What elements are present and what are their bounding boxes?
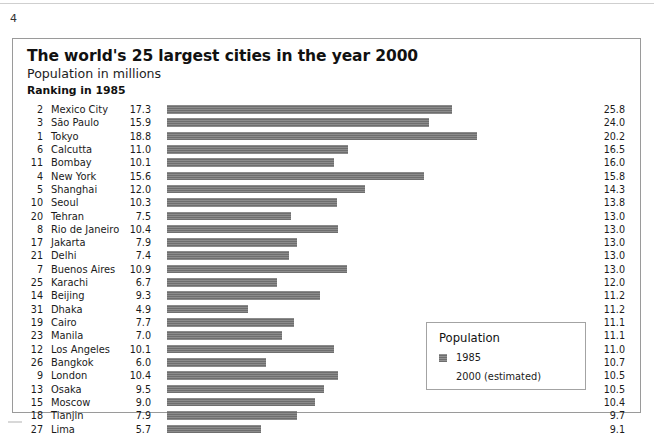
chart-subtitle: Population in millions <box>27 66 161 81</box>
row-bar-track <box>167 265 587 274</box>
row-population-2000: 10.5 <box>591 370 625 381</box>
row-city-name: Bombay <box>51 157 92 168</box>
row-city-name: Dhaka <box>51 304 83 315</box>
table-row: 27Lima5.79.1 <box>13 423 642 436</box>
row-population-2000: 11.2 <box>591 304 625 315</box>
row-population-2000: 11.1 <box>591 330 625 341</box>
legend-swatch-1985-icon <box>439 354 447 362</box>
row-rank-1985: 27 <box>23 424 43 435</box>
row-bar-1985 <box>167 118 429 127</box>
row-population-1985: 4.9 <box>125 304 151 315</box>
row-population-2000: 9.7 <box>591 410 625 421</box>
table-row: 10Seoul10.313.8 <box>13 196 642 209</box>
row-population-2000: 16.0 <box>591 157 625 168</box>
row-city-name: Mexico City <box>51 104 108 115</box>
row-rank-1985: 12 <box>23 344 43 355</box>
row-bar-1985 <box>167 305 248 314</box>
row-rank-1985: 6 <box>23 144 43 155</box>
row-population-1985: 10.3 <box>125 197 151 208</box>
row-population-2000: 11.0 <box>591 344 625 355</box>
row-bar-1985 <box>167 198 337 207</box>
row-city-name: Rio de Janeiro <box>51 224 119 235</box>
row-rank-1985: 5 <box>23 184 43 195</box>
row-bar-track <box>167 411 587 420</box>
row-population-1985: 5.7 <box>125 424 151 435</box>
row-rank-1985: 7 <box>23 264 43 275</box>
row-bar-1985 <box>167 331 282 340</box>
row-population-1985: 6.0 <box>125 357 151 368</box>
row-population-1985: 15.6 <box>125 171 151 182</box>
table-row: 7Buenos Aires10.913.0 <box>13 263 642 276</box>
scan-artifact-top-line <box>0 3 654 4</box>
row-population-2000: 10.5 <box>591 384 625 395</box>
row-population-1985: 10.4 <box>125 370 151 381</box>
row-rank-1985: 15 <box>23 397 43 408</box>
row-population-2000: 24.0 <box>591 117 625 128</box>
row-city-name: Delhi <box>51 250 76 261</box>
row-rank-1985: 20 <box>23 211 43 222</box>
row-city-name: Calcutta <box>51 144 92 155</box>
row-city-name: Lima <box>51 424 75 435</box>
ranking-column-header: Ranking in 1985 <box>27 84 126 97</box>
row-bar-track <box>167 105 587 114</box>
row-population-2000: 16.5 <box>591 144 625 155</box>
table-row: 6Calcutta11.016.5 <box>13 143 642 156</box>
row-population-1985: 15.9 <box>125 117 151 128</box>
figure-frame: The world's 25 largest cities in the yea… <box>12 38 641 413</box>
row-rank-1985: 4 <box>23 171 43 182</box>
row-bar-1985 <box>167 158 334 167</box>
row-bar-1985 <box>167 318 294 327</box>
row-rank-1985: 14 <box>23 290 43 301</box>
row-population-2000: 13.0 <box>591 211 625 222</box>
row-population-1985: 7.4 <box>125 250 151 261</box>
row-rank-1985: 17 <box>23 237 43 248</box>
row-bar-1985 <box>167 358 266 367</box>
row-population-1985: 7.9 <box>125 237 151 248</box>
row-bar-track <box>167 145 587 154</box>
row-population-2000: 14.3 <box>591 184 625 195</box>
row-rank-1985: 10 <box>23 197 43 208</box>
row-bar-1985 <box>167 251 289 260</box>
row-bar-1985 <box>167 411 297 420</box>
row-population-1985: 7.5 <box>125 211 151 222</box>
row-population-2000: 13.0 <box>591 264 625 275</box>
row-bar-1985 <box>167 425 261 434</box>
table-row: 2Mexico City17.325.8 <box>13 103 642 116</box>
row-bar-1985 <box>167 132 477 141</box>
row-population-2000: 13.0 <box>591 237 625 248</box>
row-population-2000: 13.8 <box>591 197 625 208</box>
page-number: 4 <box>10 12 17 25</box>
row-population-1985: 9.3 <box>125 290 151 301</box>
scan-artifact-bottom-mark <box>8 421 22 423</box>
row-city-name: Los Angeles <box>51 344 110 355</box>
row-population-2000: 20.2 <box>591 131 625 142</box>
row-bar-track <box>167 158 587 167</box>
row-bar-1985 <box>167 265 347 274</box>
row-bar-1985 <box>167 172 424 181</box>
legend-box: Population 1985 2000 (estimated) <box>426 322 586 390</box>
row-bar-track <box>167 425 587 434</box>
row-bar-1985 <box>167 225 338 234</box>
row-city-name: Tehran <box>51 211 84 222</box>
row-population-1985: 10.1 <box>125 344 151 355</box>
row-population-1985: 12.0 <box>125 184 151 195</box>
table-row: 1Tokyo18.820.2 <box>13 130 642 143</box>
row-city-name: Karachi <box>51 277 88 288</box>
row-city-name: Shanghai <box>51 184 97 195</box>
chart-title: The world's 25 largest cities in the yea… <box>27 47 418 65</box>
row-city-name: Seoul <box>51 197 78 208</box>
row-bar-1985 <box>167 145 348 154</box>
row-bar-1985 <box>167 398 315 407</box>
row-rank-1985: 11 <box>23 157 43 168</box>
row-population-1985: 7.0 <box>125 330 151 341</box>
row-rank-1985: 9 <box>23 370 43 381</box>
table-row: 8Rio de Janeiro10.413.0 <box>13 223 642 236</box>
row-population-1985: 6.7 <box>125 277 151 288</box>
row-rank-1985: 23 <box>23 330 43 341</box>
row-population-2000: 13.0 <box>591 250 625 261</box>
row-city-name: Tokyo <box>51 131 79 142</box>
row-city-name: New York <box>51 171 96 182</box>
row-bar-track <box>167 185 587 194</box>
row-population-1985: 9.5 <box>125 384 151 395</box>
table-row: 4New York15.615.8 <box>13 170 642 183</box>
